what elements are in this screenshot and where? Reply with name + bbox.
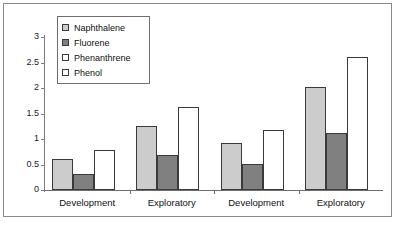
bar-phenanthrene-group-3 [263,130,284,190]
bar-naphthalene-group-3 [221,143,242,190]
y-tick-mark [41,190,45,191]
y-tick-label: 0 [34,185,39,194]
bar-chart-figure: 00.511.522.53 DevelopmentExploratoryDeve… [0,0,397,233]
legend-item-fluorene[interactable]: Fluorene [62,35,145,50]
y-tick-label: 1.5 [26,109,39,118]
legend-swatch-icon [62,69,69,76]
y-tick-label: 2.5 [26,58,39,67]
y-axis-tick-labels: 00.511.522.53 [4,4,39,233]
bar-naphthalene-group-4 [305,87,326,190]
bar-phenanthrene-group-1 [94,150,115,190]
y-tick-label: 1 [34,134,39,143]
bar-naphthalene-group-2 [136,126,157,190]
x-category-label: Exploratory [130,197,215,208]
legend-swatch-icon [62,39,69,46]
y-tick-label: 0.5 [26,160,39,169]
x-tick-mark [299,190,300,194]
legend-item-label: Naphthalene [74,23,125,33]
legend-item-label: Fluorene [74,38,110,48]
legend-item-phenanthrene[interactable]: Phenanthrene [62,50,145,65]
legend-item-naphthalene[interactable]: Naphthalene [62,20,145,35]
legend-swatch-icon [62,54,69,61]
legend-swatch-icon [62,24,69,31]
bar-fluorene-group-2 [157,155,178,190]
x-category-label: Exploratory [299,197,384,208]
legend-item-label: Phenol [74,68,102,78]
chart-legend: NaphthaleneFluorenePhenanthrenePhenol [57,16,150,84]
bar-fluorene-group-3 [242,164,263,190]
bar-naphthalene-group-1 [52,159,73,190]
x-tick-mark [130,190,131,194]
legend-item-label: Phenanthrene [74,53,131,63]
chart-frame: 00.511.522.53 DevelopmentExploratoryDeve… [3,3,392,217]
x-tick-mark [214,190,215,194]
x-category-label: Development [214,197,299,208]
x-category-label: Development [45,197,130,208]
bar-fluorene-group-4 [326,133,347,190]
y-tick-label: 3 [34,32,39,41]
bar-phenanthrene-group-2 [178,107,199,190]
bar-fluorene-group-1 [73,174,94,190]
y-tick-label: 2 [34,83,39,92]
bar-phenanthrene-group-4 [347,57,368,190]
legend-item-phenol[interactable]: Phenol [62,65,145,80]
